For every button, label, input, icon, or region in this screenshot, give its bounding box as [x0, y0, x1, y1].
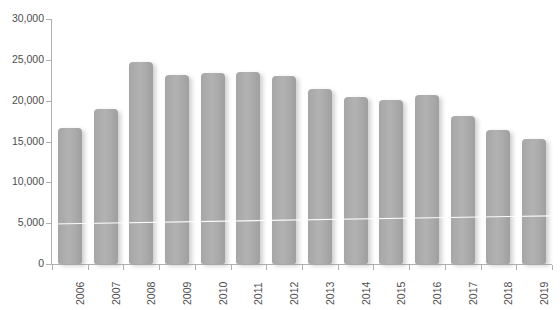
x-axis-label: 2006 [75, 282, 86, 305]
y-axis-label: 10,000 [0, 176, 44, 186]
bar [308, 89, 332, 264]
x-axis-tick [338, 265, 339, 270]
chart-title [6, 0, 546, 5]
bar [272, 76, 296, 264]
y-axis-label: 30,000 [0, 13, 44, 23]
y-axis-label: 25,000 [0, 54, 44, 64]
x-axis-tick [266, 265, 267, 270]
bar [415, 95, 439, 264]
x-axis-tick [516, 265, 517, 270]
bar [201, 73, 225, 264]
x-axis-label: 2014 [361, 282, 372, 305]
y-axis-tick [46, 19, 51, 20]
x-axis-label: 2009 [182, 282, 193, 305]
bar [58, 128, 82, 264]
y-axis-tick [46, 223, 51, 224]
x-axis-tick [373, 265, 374, 270]
x-axis-tick [123, 265, 124, 270]
bar [94, 109, 118, 264]
y-axis-label: 5,000 [0, 217, 44, 227]
y-axis-label: 20,000 [0, 95, 44, 105]
bar-chart: 05,00010,00015,00020,00025,00030,000 200… [0, 0, 560, 310]
x-axis-tick [195, 265, 196, 270]
x-axis-tick [552, 265, 553, 270]
y-axis-tick [46, 182, 51, 183]
x-axis-tick [52, 265, 53, 270]
x-axis-tick [409, 265, 410, 270]
y-axis-tick [46, 142, 51, 143]
y-axis-tick [46, 60, 51, 61]
bar [486, 130, 510, 264]
x-axis-tick [231, 265, 232, 270]
plot-area [52, 19, 552, 264]
y-axis-tick [46, 264, 51, 265]
x-axis-label: 2012 [289, 282, 300, 305]
x-axis-label: 2018 [503, 282, 514, 305]
trend-line [52, 19, 552, 264]
x-axis-label: 2019 [539, 282, 550, 305]
bar [522, 139, 546, 264]
x-axis-tick [159, 265, 160, 270]
x-axis-label: 2011 [253, 282, 264, 305]
y-axis-label: 15,000 [0, 136, 44, 146]
y-axis-label: 0 [0, 258, 44, 268]
x-axis-label: 2017 [468, 282, 479, 305]
x-axis-tick [302, 265, 303, 270]
bar [379, 100, 403, 264]
bar [451, 116, 475, 264]
bar [129, 62, 153, 264]
bar [165, 75, 189, 264]
x-axis-label: 2015 [396, 282, 407, 305]
x-axis-label: 2016 [432, 282, 443, 305]
x-axis-tick [445, 265, 446, 270]
bar [236, 72, 260, 264]
y-axis-tick [46, 101, 51, 102]
x-axis-label: 2008 [146, 282, 157, 305]
x-axis-label: 2010 [218, 282, 229, 305]
x-axis-tick [88, 265, 89, 270]
x-axis-label: 2007 [111, 282, 122, 305]
x-axis-tick [481, 265, 482, 270]
bar [344, 97, 368, 264]
trend-line-segment [52, 216, 552, 224]
x-axis-label: 2013 [325, 282, 336, 305]
